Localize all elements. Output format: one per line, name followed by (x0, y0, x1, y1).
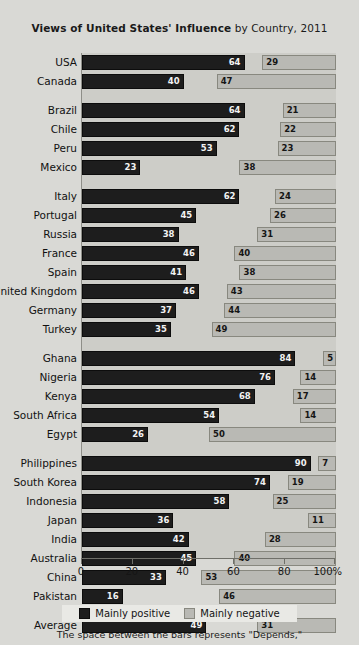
bar-negative: 38 (239, 160, 336, 175)
chart-row: 6817 (82, 387, 336, 406)
bar-positive: 26 (82, 427, 148, 442)
bar-negative: 7 (318, 456, 336, 471)
country-label: France (42, 244, 77, 263)
country-label: Mexico (40, 158, 77, 177)
axis-tick (233, 559, 234, 564)
bar-value-negative: 46 (223, 590, 235, 603)
country-label: Egypt (47, 425, 77, 444)
bar-negative: 17 (293, 389, 336, 404)
bar-value-positive: 58 (213, 495, 225, 508)
axis-tick-label: 60 (227, 566, 240, 577)
bar-value-negative: 47 (221, 75, 233, 88)
bar-value-negative: 40 (238, 247, 250, 260)
bar-value-positive: 36 (158, 514, 170, 527)
bar-negative: 49 (212, 322, 336, 337)
bar-negative: 24 (275, 189, 336, 204)
legend-label-positive: Mainly positive (95, 608, 170, 619)
country-label: Philippines (20, 454, 77, 473)
country-label: Italy (54, 187, 77, 206)
legend-item-positive: Mainly positive (79, 608, 170, 619)
country-label: Ghana (43, 349, 77, 368)
chart-row: 6224 (82, 187, 336, 206)
bar-value-negative: 50 (213, 428, 225, 441)
country-label: Japan (48, 511, 77, 530)
bar-value-negative: 28 (269, 533, 281, 546)
bar-value-positive: 64 (229, 104, 241, 117)
chart-row: 2338 (82, 158, 336, 177)
bar-negative: 50 (209, 427, 336, 442)
chart-row: 3549 (82, 320, 336, 339)
bar-positive: 76 (82, 370, 275, 385)
bar-value-negative: 44 (228, 304, 240, 317)
bar-positive: 45 (82, 208, 196, 223)
country-label: South Korea (13, 473, 77, 492)
chart-row: 4640 (82, 244, 336, 263)
bar-value-negative: 22 (284, 123, 296, 136)
bar-value-positive: 45 (180, 209, 192, 222)
chart-row: 6222 (82, 120, 336, 139)
bar-positive: 84 (82, 351, 295, 366)
chart-row: 6429 (82, 53, 336, 72)
x-axis: 020406080100% (81, 558, 335, 565)
bar-positive: 35 (82, 322, 171, 337)
legend-item-negative: Mainly negative (184, 608, 279, 619)
chart-row: 4047 (82, 72, 336, 91)
bar-value-negative: 26 (274, 209, 286, 222)
bar-negative: 5 (323, 351, 336, 366)
country-label: Spain (48, 263, 77, 282)
bar-negative: 47 (217, 74, 336, 89)
plot-area: 6429404764216222532323386224452638314640… (81, 53, 336, 558)
bar-positive: 42 (82, 532, 189, 547)
bar-value-positive: 54 (203, 409, 215, 422)
chart-row: 7614 (82, 368, 336, 387)
country-label: USA (55, 53, 77, 72)
bar-value-negative: 24 (279, 190, 291, 203)
bar-value-positive: 41 (170, 266, 182, 279)
bar-negative: 40 (234, 246, 336, 261)
chart-row: 1646 (82, 587, 336, 606)
bar-positive: 41 (82, 265, 186, 280)
bar-negative: 29 (262, 55, 336, 70)
bar-positive: 74 (82, 475, 270, 490)
chart-row: 3353 (82, 568, 336, 587)
country-label: Germany (29, 301, 77, 320)
bar-positive: 64 (82, 55, 245, 70)
bar-positive: 37 (82, 303, 176, 318)
chart-row: 5323 (82, 139, 336, 158)
bar-value-negative: 38 (243, 161, 255, 174)
bar-value-positive: 35 (155, 323, 167, 336)
axis-tick-label: 0 (78, 566, 84, 577)
bar-positive: 62 (82, 122, 239, 137)
bar-value-positive: 37 (160, 304, 172, 317)
bar-positive: 33 (82, 570, 166, 585)
bar-value-negative: 29 (266, 56, 278, 69)
bar-value-negative: 31 (261, 228, 273, 241)
legend-swatch-positive-icon (79, 608, 90, 619)
legend-swatch-negative-icon (184, 608, 195, 619)
bar-positive: 38 (82, 227, 179, 242)
bar-positive: 46 (82, 246, 199, 261)
bar-value-negative: 49 (216, 323, 228, 336)
chart-row: 6421 (82, 101, 336, 120)
bar-positive: 62 (82, 189, 239, 204)
bar-value-negative: 38 (243, 266, 255, 279)
chart-row: 845 (82, 349, 336, 368)
country-label: Pakistan (33, 587, 77, 606)
bar-negative: 21 (283, 103, 336, 118)
axis-tick (334, 559, 335, 564)
chart-row: 4138 (82, 263, 336, 282)
bar-positive: 36 (82, 513, 173, 528)
bar-negative: 44 (224, 303, 336, 318)
country-label: South Africa (13, 406, 77, 425)
country-label: Peru (54, 139, 77, 158)
bar-value-positive: 64 (229, 56, 241, 69)
bar-positive: 23 (82, 160, 140, 175)
bar-value-negative: 11 (312, 514, 324, 527)
chart-row: 3611 (82, 511, 336, 530)
bar-negative: 11 (308, 513, 336, 528)
bar-positive: 40 (82, 74, 184, 89)
chart-container: Views of United States' Influence by Cou… (0, 0, 359, 645)
bar-negative: 31 (257, 227, 336, 242)
bar-positive: 54 (82, 408, 219, 423)
country-label: Australia (31, 549, 77, 568)
